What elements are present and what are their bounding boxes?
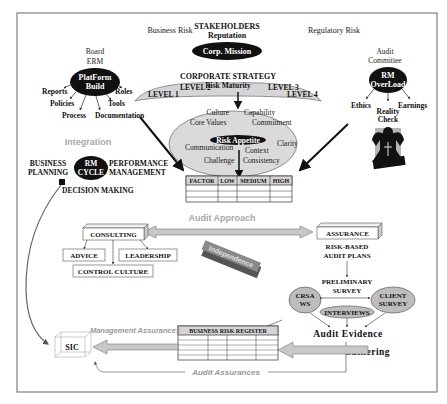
build-label: Build — [86, 82, 105, 91]
assurance-label: ASSURANCE — [326, 230, 369, 238]
branch-reports: Reports — [42, 87, 67, 96]
register-to-sic-arrow — [93, 340, 178, 354]
sic-label: SIC — [65, 343, 79, 352]
level-1: LEVEL 1 — [148, 90, 179, 99]
integration-label: Integration — [65, 137, 112, 147]
control-culture-label: CONTROL CULTURE — [78, 268, 149, 276]
word-capability: Capability — [244, 108, 275, 117]
interviews-label: INTERVIEWS — [324, 309, 369, 317]
platform-label: PlatForm — [79, 73, 112, 82]
leadership-label: LEADERSHIP — [125, 252, 171, 260]
business-risk-label: Business Risk — [147, 26, 192, 35]
performance-label: PERFORMANCE — [109, 159, 168, 168]
advice-label: ADVICE — [70, 252, 98, 260]
decision-making-label: DECISION MAKING — [62, 186, 134, 195]
client-survey-label: SURVEY — [379, 300, 408, 308]
branch-documentation: Documentation — [95, 111, 145, 120]
word-commitment: Commitment — [252, 118, 293, 127]
regulatory-risk-label: Regulatory Risk — [308, 26, 360, 35]
audit-assurances-arrow — [95, 362, 185, 372]
stakeholders-label: STAKEHOLDERS — [194, 22, 260, 31]
medium-header: MEDIUM — [240, 178, 267, 184]
decision-marker — [59, 179, 65, 185]
branch-policies: Policies — [50, 99, 74, 108]
board-label: Board — [86, 47, 105, 56]
word-core-values: Core Values — [190, 118, 226, 127]
assurance-box: ASSURANCE — [317, 223, 382, 239]
corporate-strategy-title: CORPORATE STRATEGY — [180, 72, 276, 81]
risk-based-label: RISK-BASED — [326, 243, 369, 251]
word-communication: Communication — [185, 143, 234, 152]
committee-to-factor-arrow — [300, 124, 348, 170]
branch-process: Process — [62, 111, 86, 120]
consulting-box: CONSULTING — [83, 224, 148, 240]
audit-plans-label: AUDIT PLANS — [323, 252, 370, 260]
erm-label: ERM — [87, 57, 104, 66]
corp-mission-label: Corp. Mission — [203, 47, 252, 56]
ws-label: WS — [300, 300, 311, 308]
branch-earnings: Earnings — [398, 101, 427, 110]
erm-audit-diagram: Business Risk STAKEHOLDERS Reputation Re… — [0, 0, 447, 404]
factor-table: FACTOR LOW MEDIUM HIGH — [186, 176, 292, 202]
overload-label: OverLoad — [370, 80, 406, 89]
crsa-label: CRSA — [295, 292, 314, 300]
survey-label: SURVEY — [333, 287, 362, 295]
reputation-label: Reputation — [208, 31, 247, 40]
rm-label: RM — [381, 71, 395, 80]
planning-label: PLANNING — [28, 168, 68, 177]
word-context: Context — [245, 146, 270, 155]
word-clarity: Clarity — [277, 139, 298, 148]
weightlifter-icon — [372, 127, 406, 169]
preliminary-label: PRELIMINARY — [322, 278, 373, 286]
client-label: CLIENT — [380, 292, 407, 300]
audit-evidence-label: Audit Evidence — [313, 329, 383, 339]
high-header: HIGH — [273, 178, 290, 184]
independence-graphic: Independence — [199, 240, 262, 278]
rm-cycle-line1: RM — [85, 159, 98, 168]
sic-box: SIC — [55, 332, 91, 357]
branch-roles: Roles — [115, 87, 133, 96]
word-challenge: Challenge — [204, 156, 235, 165]
decision-to-sic-arrow — [26, 185, 61, 344]
rm-cycle-line2: CYCLE — [78, 168, 104, 177]
branch-tools: Tools — [108, 99, 125, 108]
committee-label: Committee — [368, 56, 402, 65]
low-header: LOW — [220, 178, 235, 184]
branch-check: Check — [378, 115, 399, 124]
register-title: BUSINESS RISK REGISTER — [189, 328, 267, 334]
management-assurances-label: Management Assurances — [90, 326, 180, 335]
level-4: LEVEL 4 — [287, 90, 318, 99]
audit-approach-label: Audit Approach — [188, 213, 255, 223]
audit-approach-arrow — [143, 226, 313, 238]
audit-label: Audit — [376, 47, 394, 56]
factor-header: FACTOR — [190, 178, 215, 184]
business-risk-register-table: BUSINESS RISK REGISTER — [178, 326, 278, 360]
management-label: MANAGEMENT — [109, 168, 166, 177]
branch-ethics: Ethics — [351, 101, 371, 110]
business-label: BUSINESS — [30, 159, 66, 168]
word-consistency: Consistency — [243, 156, 280, 165]
word-culture: Culture — [207, 108, 230, 117]
audit-assurances-label: Audit Assurances — [191, 368, 260, 377]
consulting-label: CONSULTING — [90, 231, 137, 239]
risk-maturity-label: Risk Maturity — [205, 81, 251, 90]
